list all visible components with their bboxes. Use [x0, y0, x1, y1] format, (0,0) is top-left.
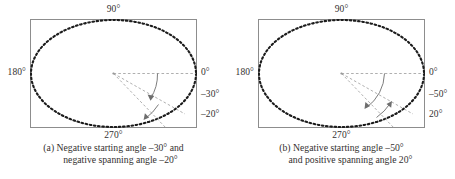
arrowhead-start-angle-b [365, 102, 371, 109]
axis-label-0-a: 0° [201, 68, 210, 78]
caption-b: (b) Negative starting angle –50° and pos… [228, 142, 455, 167]
panel-a: 90° 180° 270° 0° –30° –20° (a) Negative … [0, 0, 227, 179]
guide-ray-minus30-b [342, 74, 414, 115]
caption-b-line1: (b) Negative starting angle –50° [279, 142, 403, 153]
plot-area-b: 90° 180° 270° 0° –50° 20° [258, 19, 425, 128]
caption-a: (a) Negative starting angle –30° and neg… [0, 142, 227, 167]
axis-label-270-a: 270° [104, 131, 122, 141]
diagram-graphics-a [30, 19, 197, 128]
caption-b-line2: and positive spanning angle 20° [228, 154, 455, 166]
guide-ray-minus30-a [114, 74, 186, 115]
guide-ray-minus50-a [114, 74, 168, 129]
axis-label-start-a: –30° [201, 90, 219, 100]
panel-b: 90° 180° 270° 0° –50° 20° (b) Negative s… [228, 0, 455, 179]
axis-label-span-a: –20° [201, 110, 219, 120]
axis-label-180-b: 180° [236, 68, 254, 78]
axis-label-0-b: 0° [429, 68, 438, 78]
axis-label-90-a: 90° [107, 5, 121, 15]
axis-label-180-a: 180° [8, 68, 26, 78]
diagram-graphics-b [258, 19, 425, 128]
guide-ray-minus50-b [342, 74, 396, 129]
arrowhead-start-angle-a [148, 95, 155, 101]
figure-elliptical-arc-angles: 90° 180° 270° 0° –30° –20° (a) Negative … [0, 0, 455, 179]
axis-label-start-b: –50° [429, 90, 447, 100]
caption-a-line2: negative spanning angle –20° [0, 154, 227, 166]
axis-label-270-b: 270° [332, 131, 350, 141]
axis-label-90-b: 90° [335, 5, 349, 15]
axis-label-span-b: 20° [429, 110, 443, 120]
plot-area-a: 90° 180° 270° 0° –30° –20° [30, 19, 197, 128]
caption-a-line1: (a) Negative starting angle –30° and [43, 142, 183, 153]
